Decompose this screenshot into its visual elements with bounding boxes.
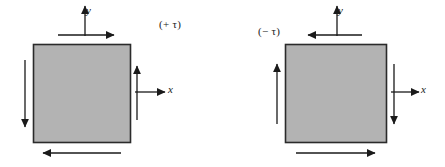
shear-stress-sign-convention-figure: (+ τ) y x (− τ) y x [0, 0, 445, 167]
axis-y-label: y [338, 4, 343, 16]
negative-shear-label: (− τ) [258, 25, 280, 37]
axis-y-label: y [86, 4, 91, 16]
axis-x-label: x [168, 83, 173, 95]
stress-element-square [34, 45, 131, 143]
figure-canvas [0, 0, 445, 167]
panel-negative-shear [277, 6, 419, 153]
stress-element-square [286, 45, 387, 143]
panel-positive-shear [25, 6, 165, 153]
positive-shear-label: (+ τ) [159, 18, 181, 30]
axis-x-label: x [421, 83, 426, 95]
